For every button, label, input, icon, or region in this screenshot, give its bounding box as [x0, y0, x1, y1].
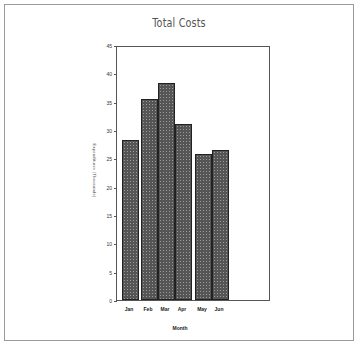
y-tick-mark	[114, 244, 117, 245]
y-tick-mark	[114, 159, 117, 160]
y-tick-mark	[114, 216, 117, 217]
bar-mar	[158, 83, 175, 300]
y-tick-label: 10	[100, 241, 112, 247]
x-tick-label: Jan	[119, 306, 139, 312]
bar-apr	[175, 124, 192, 300]
bar-feb	[141, 99, 158, 300]
chart-title: Total Costs	[36, 16, 322, 30]
y-tick-label: 45	[100, 43, 112, 49]
y-tick-label: 35	[100, 100, 112, 106]
y-tick-mark	[114, 74, 117, 75]
bar-jun	[212, 150, 229, 300]
x-axis-title: Month	[168, 325, 192, 331]
y-tick-mark	[114, 103, 117, 104]
y-tick-label: 25	[100, 156, 112, 162]
x-tick-label: Apr	[172, 306, 192, 312]
y-tick-label: 15	[100, 213, 112, 219]
x-tick-label: Jun	[209, 306, 229, 312]
y-tick-label: 40	[100, 71, 112, 77]
plot-area	[116, 46, 270, 301]
y-tick-label: 20	[100, 185, 112, 191]
y-tick-label: 5	[100, 270, 112, 276]
y-tick-mark	[114, 273, 117, 274]
bar-may	[195, 154, 212, 300]
y-tick-label: 30	[100, 128, 112, 134]
y-tick-label: 0	[100, 298, 112, 304]
bar-jan	[122, 140, 139, 300]
y-tick-mark	[114, 46, 117, 47]
y-tick-mark	[114, 188, 117, 189]
y-tick-mark	[114, 301, 117, 302]
y-tick-mark	[114, 131, 117, 132]
y-axis-title: Expenditures (Thousands)	[92, 141, 97, 201]
